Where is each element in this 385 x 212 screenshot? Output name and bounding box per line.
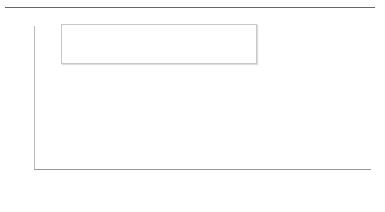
legend-item-copula xyxy=(68,28,83,43)
legend-swatch-light xyxy=(68,47,77,56)
title-rule xyxy=(5,7,375,8)
legend xyxy=(61,24,257,64)
x-axis xyxy=(34,169,371,170)
legend-swatch-dark xyxy=(68,31,77,40)
legend-item-third-person xyxy=(68,44,83,59)
y-axis xyxy=(34,26,35,169)
